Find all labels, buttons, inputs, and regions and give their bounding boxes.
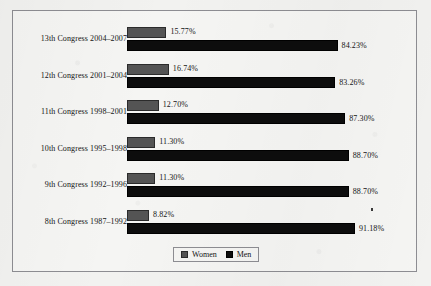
- bar-women: [127, 100, 159, 111]
- category-label: 9th Congress 1992–1996: [19, 180, 127, 190]
- category-label: 11th Congress 1998–2001: [19, 107, 127, 117]
- bar-value-label-women: 15.77%: [170, 27, 195, 37]
- category-label: 10th Congress 1995–1998: [19, 144, 127, 154]
- bar-value-label-men: 91.18%: [359, 224, 384, 234]
- bar-value-label-men: 83.26%: [339, 78, 364, 88]
- bar-women: [127, 137, 155, 148]
- legend-label-women: Women: [192, 250, 217, 259]
- chart-legend: Women Men: [173, 247, 259, 262]
- bar-men: [127, 113, 345, 124]
- bar-men: [127, 223, 355, 234]
- bar-value-label-men: 84.23%: [342, 41, 367, 51]
- bar-men: [127, 40, 338, 51]
- bar-value-label-women: 16.74%: [173, 64, 198, 74]
- bar-value-label-men: 88.70%: [353, 187, 378, 197]
- chart-frame: 13th Congress 2004–200715.77%84.23%12th …: [12, 10, 417, 272]
- chart-screenshot: 13th Congress 2004–200715.77%84.23%12th …: [0, 0, 431, 286]
- scan-artifact-speck: [371, 208, 373, 211]
- bar-value-label-women: 8.82%: [153, 210, 174, 220]
- bar-women: [127, 27, 166, 38]
- bar-women: [127, 210, 149, 221]
- bar-men: [127, 77, 335, 88]
- legend-item-women: Women: [181, 250, 217, 259]
- bar-women: [127, 173, 155, 184]
- bar-track: 12.70%87.30%: [127, 98, 416, 130]
- category-label: 12th Congress 2001–2004: [19, 71, 127, 81]
- bar-value-label-men: 88.70%: [353, 151, 378, 161]
- legend-label-men: Men: [237, 250, 252, 259]
- bar-track: 11.30%88.70%: [127, 135, 416, 167]
- bar-value-label-women: 12.70%: [163, 100, 188, 110]
- category-label: 13th Congress 2004–2007: [19, 34, 127, 44]
- bar-women: [127, 64, 169, 75]
- bar-value-label-men: 87.30%: [349, 114, 374, 124]
- bar-group: 9th Congress 1992–199611.30%88.70%: [13, 171, 416, 203]
- bar-track: 16.74%83.26%: [127, 62, 416, 94]
- legend-swatch-men-icon: [226, 251, 233, 258]
- bar-group: 12th Congress 2001–200416.74%83.26%: [13, 62, 416, 94]
- bar-group: 8th Congress 1987–19928.82%91.18%: [13, 208, 416, 240]
- bar-group: 10th Congress 1995–199811.30%88.70%: [13, 135, 416, 167]
- legend-item-men: Men: [226, 250, 252, 259]
- plot-area: 13th Congress 2004–200715.77%84.23%12th …: [13, 11, 416, 271]
- category-label: 8th Congress 1987–1992: [19, 217, 127, 227]
- bar-track: 11.30%88.70%: [127, 171, 416, 203]
- bar-value-label-women: 11.30%: [159, 137, 184, 147]
- bar-group: 11th Congress 1998–200112.70%87.30%: [13, 98, 416, 130]
- legend-swatch-women-icon: [181, 251, 188, 258]
- bar-track: 15.77%84.23%: [127, 25, 416, 57]
- bar-track: 8.82%91.18%: [127, 208, 416, 240]
- bar-men: [127, 186, 349, 197]
- bar-men: [127, 150, 349, 161]
- bar-group: 13th Congress 2004–200715.77%84.23%: [13, 25, 416, 57]
- bar-value-label-women: 11.30%: [159, 173, 184, 183]
